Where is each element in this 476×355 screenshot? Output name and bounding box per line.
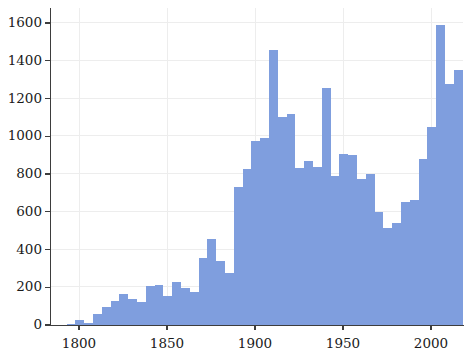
histogram-bar — [155, 285, 164, 325]
histogram-bar — [454, 70, 463, 325]
x-tick-label: 1900 — [238, 335, 272, 351]
x-tick-label-wrap: 1800 — [49, 333, 109, 352]
plot-area — [51, 8, 463, 325]
histogram-bar — [269, 50, 278, 325]
gridline-horizontal — [51, 60, 463, 61]
histogram-bar — [163, 296, 172, 325]
x-tick-label-wrap: 1950 — [313, 333, 373, 352]
histogram-bar — [119, 294, 128, 325]
histogram-bar — [251, 141, 260, 325]
x-tick-label-wrap: 1900 — [225, 333, 285, 352]
histogram-bar — [348, 155, 357, 325]
histogram-bar — [313, 167, 322, 325]
y-tick-mark — [45, 324, 50, 325]
y-tick-label-wrap: 0 — [0, 318, 42, 332]
x-tick-label: 1800 — [62, 335, 96, 351]
histogram-bar — [401, 202, 410, 325]
x-tick-label: 1850 — [150, 335, 184, 351]
histogram-bar — [366, 174, 375, 325]
y-tick-label: 400 — [16, 243, 42, 257]
y-tick-mark — [45, 60, 50, 61]
y-tick-label-wrap: 1200 — [0, 92, 42, 106]
histogram-bar — [234, 187, 243, 325]
x-tick-mark — [166, 325, 167, 330]
y-tick-label: 1600 — [8, 16, 42, 30]
y-axis-spine — [50, 8, 51, 325]
x-tick-mark — [342, 325, 343, 330]
y-tick-label: 1000 — [8, 129, 42, 143]
y-tick-mark — [45, 211, 50, 212]
gridline-horizontal — [51, 98, 463, 99]
y-tick-label: 0 — [33, 318, 42, 332]
y-tick-label: 600 — [16, 205, 42, 219]
y-tick-label: 200 — [16, 280, 42, 294]
histogram-bar — [181, 288, 190, 325]
histogram-bar — [322, 88, 331, 325]
histogram-bar — [427, 127, 436, 325]
histogram-bar — [375, 212, 384, 325]
histogram-figure: 02004006008001000120014001600 1800185019… — [0, 0, 476, 355]
histogram-bar — [339, 154, 348, 325]
y-tick-mark — [45, 98, 50, 99]
histogram-bar — [410, 200, 419, 325]
y-tick-mark — [45, 173, 50, 174]
y-tick-label-wrap: 200 — [0, 280, 42, 294]
y-tick-mark — [45, 287, 50, 288]
y-tick-mark — [45, 136, 50, 137]
histogram-bar — [93, 314, 102, 325]
x-tick-mark — [78, 325, 79, 330]
gridline-vertical — [167, 8, 168, 325]
y-tick-label-wrap: 600 — [0, 205, 42, 219]
y-tick-label: 800 — [16, 167, 42, 181]
histogram-bar — [419, 159, 428, 325]
gridline-vertical — [79, 8, 80, 325]
y-tick-label: 1400 — [8, 54, 42, 68]
y-tick-label-wrap: 400 — [0, 243, 42, 257]
y-tick-label-wrap: 1400 — [0, 54, 42, 68]
histogram-bar — [436, 25, 445, 325]
y-tick-label-wrap: 800 — [0, 167, 42, 181]
histogram-bar — [137, 302, 146, 325]
histogram-bar — [207, 239, 216, 325]
y-tick-mark — [45, 22, 50, 23]
y-tick-label-wrap: 1600 — [0, 16, 42, 30]
histogram-bar — [243, 169, 252, 325]
x-tick-label-wrap: 1850 — [137, 333, 197, 352]
gridline-horizontal — [51, 22, 463, 23]
histogram-bar — [278, 117, 287, 325]
histogram-bar — [128, 299, 137, 325]
gridline-horizontal — [51, 135, 463, 136]
x-tick-label: 1950 — [326, 335, 360, 351]
histogram-bar — [445, 84, 454, 325]
x-tick-mark — [430, 325, 431, 330]
histogram-bar — [331, 176, 340, 325]
histogram-bar — [260, 138, 269, 325]
histogram-bar — [146, 286, 155, 325]
x-tick-label: 2000 — [414, 335, 448, 351]
histogram-bar — [295, 168, 304, 325]
histogram-bar — [190, 292, 199, 325]
histogram-bar — [225, 273, 234, 325]
y-tick-label-wrap: 1000 — [0, 129, 42, 143]
x-tick-mark — [254, 325, 255, 330]
histogram-bar — [392, 223, 401, 325]
x-tick-label-wrap: 2000 — [401, 333, 461, 352]
histogram-bar — [199, 258, 208, 325]
histogram-bar — [172, 282, 181, 325]
histogram-bar — [102, 307, 111, 325]
y-tick-label: 1200 — [8, 92, 42, 106]
histogram-bar — [357, 179, 366, 325]
histogram-bar — [287, 114, 296, 325]
y-tick-mark — [45, 249, 50, 250]
histogram-bar — [383, 228, 392, 325]
histogram-bar — [111, 301, 120, 325]
x-axis-spine — [50, 325, 464, 326]
histogram-bar — [304, 161, 313, 325]
histogram-bar — [216, 261, 225, 325]
